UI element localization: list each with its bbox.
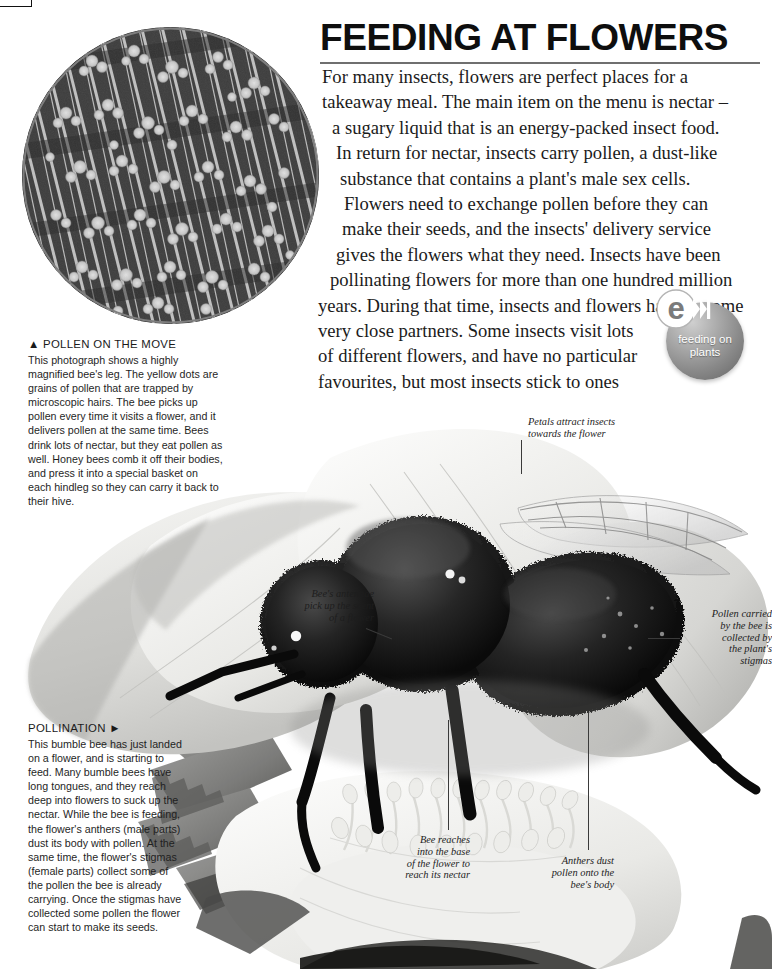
leader-line-bee-reaches <box>448 720 449 830</box>
feeding-on-plants-badge[interactable]: e feeding on plants <box>655 288 747 380</box>
caption-pollination-body: This bumble bee has just landed on a flo… <box>28 737 182 934</box>
intro-line: Flowers need to exchange pollen before t… <box>318 191 770 216</box>
caption-pollen-on-the-move: ▲ POLLEN ON THE MOVE This photograph sho… <box>28 338 224 508</box>
annotation-antennae-text: Bee's antennae pick up the scent of a fl… <box>304 588 374 623</box>
badge-caption-line2: plants <box>690 346 721 358</box>
article-header: FEEDING AT FLOWERS <box>320 18 760 64</box>
badge-letter: e <box>667 291 684 326</box>
registration-mark <box>0 0 32 7</box>
caption-pollination: POLLINATION ► This bumble bee has just l… <box>28 722 182 934</box>
annotation-pollen-carried: Pollen carried by the bee is collected b… <box>684 608 772 667</box>
leader-line-petals <box>521 440 522 474</box>
caption-pollen-body: This photograph shows a highly magnified… <box>28 353 224 508</box>
annotation-bee-reaches-text: Bee reaches into the base of the flower … <box>405 834 470 880</box>
page-title: FEEDING AT FLOWERS <box>320 18 760 58</box>
annotation-bee-reaches: Bee reaches into the base of the flower … <box>366 834 470 881</box>
intro-line: gives the flowers what they need. Insect… <box>318 242 770 267</box>
caption-pollen-title: ▲ POLLEN ON THE MOVE <box>28 338 224 350</box>
caption-pollination-title: POLLINATION ► <box>28 722 182 734</box>
intro-line: make their seeds, and the insects' deliv… <box>318 216 770 241</box>
e-logo-icon: e <box>655 288 711 330</box>
intro-line: takeaway meal. The main item on the menu… <box>318 89 770 114</box>
intro-line: substance that contains a plant's male s… <box>318 166 770 191</box>
annotation-petals: Petals attract insects towards the flowe… <box>528 416 648 440</box>
annotation-antennae: Bee's antennae pick up the scent of a fl… <box>270 588 374 623</box>
page-root: FEEDING AT FLOWERS For many insects, flo… <box>0 0 772 969</box>
badge-caption: feeding on plants <box>666 333 744 360</box>
annotation-pollen-carried-text: Pollen carried by the bee is collected b… <box>712 608 772 666</box>
pollen-micrograph-image <box>22 27 319 324</box>
annotation-anthers-text: Anthers dust pollen onto the bee's body <box>552 855 614 890</box>
leader-line-pollen-carried <box>648 638 680 639</box>
badge-caption-line1: feeding on <box>678 333 732 345</box>
annotation-petals-text: Petals attract insects towards the flowe… <box>528 416 615 439</box>
intro-line: For many insects, flowers are perfect pl… <box>318 64 770 89</box>
leader-line-anthers <box>588 712 589 850</box>
intro-line: In return for nectar, insects carry poll… <box>318 140 770 165</box>
intro-line: a sugary liquid that is an energy-packed… <box>318 115 770 140</box>
annotation-anthers: Anthers dust pollen onto the bee's body <box>510 855 614 890</box>
